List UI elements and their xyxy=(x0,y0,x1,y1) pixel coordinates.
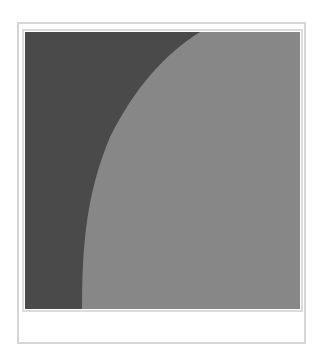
abstract-image xyxy=(25,32,300,309)
picture xyxy=(25,32,300,309)
